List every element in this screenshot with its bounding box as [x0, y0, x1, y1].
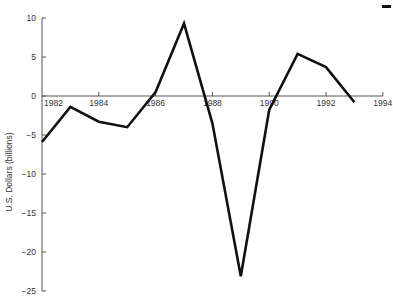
y-tick-label: −25 — [22, 286, 37, 296]
x-tick-label: 1990 — [260, 98, 279, 108]
y-axis: 1050−5−10−15−20−25 — [22, 13, 46, 296]
y-tick-label: −15 — [22, 208, 37, 218]
x-axis: 1982198419861988199019921994 — [42, 92, 393, 108]
series-group — [42, 23, 355, 276]
corner-dash-mark — [382, 5, 391, 8]
y-tick-label: −10 — [22, 169, 37, 179]
x-tick-label: 1984 — [89, 98, 108, 108]
y-tick-label: −5 — [26, 130, 36, 140]
y-tick-label: 0 — [31, 91, 36, 101]
x-tick-label: 1982 — [44, 98, 63, 108]
x-tick-label: 1992 — [317, 98, 336, 108]
y-axis-title: U.S. Dollars (billions) — [4, 132, 14, 212]
y-tick-label: 10 — [27, 13, 37, 23]
y-tick-label: 5 — [31, 52, 36, 62]
x-tick-label: 1994 — [373, 98, 392, 108]
line-chart: 1050−5−10−15−20−25 198219841986198819901… — [0, 0, 393, 308]
series-line — [42, 24, 354, 277]
y-tick-label: −20 — [22, 247, 37, 257]
